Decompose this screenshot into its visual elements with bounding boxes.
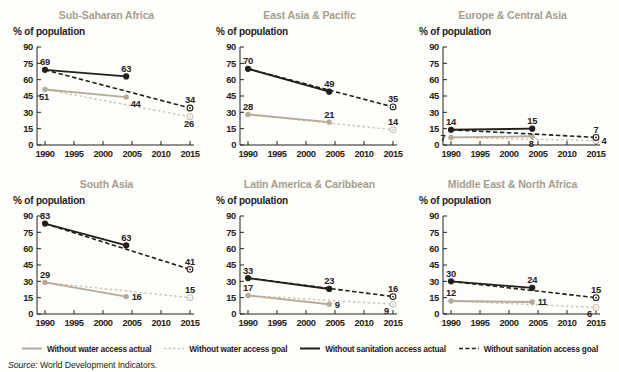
svg-text:15: 15 <box>429 124 439 134</box>
svg-text:75: 75 <box>226 59 236 69</box>
svg-text:1990: 1990 <box>441 149 460 159</box>
svg-text:2015: 2015 <box>586 318 605 328</box>
svg-text:1995: 1995 <box>470 318 489 328</box>
svg-text:33: 33 <box>243 265 253 276</box>
svg-text:2005: 2005 <box>122 149 141 159</box>
svg-text:45: 45 <box>226 260 236 270</box>
svg-text:30: 30 <box>23 108 33 118</box>
svg-text:0: 0 <box>28 309 33 319</box>
chart-title: Middle East & North Africa <box>413 177 612 192</box>
svg-text:45: 45 <box>429 260 439 270</box>
svg-text:51: 51 <box>39 91 49 102</box>
svg-text:7: 7 <box>594 124 599 135</box>
svg-text:1990: 1990 <box>35 318 54 328</box>
chart-sub-saharan-africa: Sub-Saharan Africa % of population 01530… <box>7 8 206 169</box>
svg-text:90: 90 <box>226 211 236 221</box>
y-axis-label: % of population <box>13 194 206 207</box>
svg-text:2015: 2015 <box>383 318 402 328</box>
svg-text:2000: 2000 <box>296 318 315 328</box>
svg-text:2015: 2015 <box>586 149 605 159</box>
svg-text:60: 60 <box>23 244 33 254</box>
legend-label: Without sanitation access goal <box>484 344 598 354</box>
sanitation-actual-line-sample-icon <box>299 344 321 353</box>
svg-text:4: 4 <box>602 135 608 146</box>
source-text: World Development Indicators. <box>38 360 158 370</box>
chart-east-asia-pacific: East Asia & Pacific % of population 0153… <box>210 8 409 169</box>
svg-text:0: 0 <box>231 309 236 319</box>
chart-title: Latin America & Caribbean <box>210 177 409 192</box>
svg-text:15: 15 <box>185 284 195 295</box>
svg-text:15: 15 <box>226 293 236 303</box>
svg-text:16: 16 <box>388 283 398 294</box>
y-axis-label: % of population <box>419 25 612 38</box>
svg-text:35: 35 <box>388 93 398 104</box>
svg-text:14: 14 <box>388 116 399 127</box>
svg-text:1995: 1995 <box>64 149 83 159</box>
svg-text:30: 30 <box>429 277 439 287</box>
svg-text:21: 21 <box>324 109 334 120</box>
svg-text:90: 90 <box>23 211 33 221</box>
svg-text:0: 0 <box>434 309 439 319</box>
legend-item-sanitation-goal: Without sanitation access goal <box>458 344 598 354</box>
legend: Without water access actual Without wate… <box>0 341 619 356</box>
svg-text:90: 90 <box>23 42 33 52</box>
chart-europe-central-asia: Europe & Central Asia % of population 01… <box>413 8 612 169</box>
svg-text:11: 11 <box>538 296 547 307</box>
svg-text:30: 30 <box>23 277 33 287</box>
svg-text:45: 45 <box>23 260 33 270</box>
svg-text:60: 60 <box>429 75 439 85</box>
svg-text:15: 15 <box>23 124 33 134</box>
svg-text:1995: 1995 <box>267 318 286 328</box>
water-goal-line-sample-icon <box>163 344 185 353</box>
svg-text:17: 17 <box>243 282 253 293</box>
svg-text:1990: 1990 <box>35 149 54 159</box>
svg-text:90: 90 <box>226 42 236 52</box>
chart-south-asia: South Asia % of population 0153045607590… <box>7 177 206 338</box>
charts-grid: Sub-Saharan Africa % of population 01530… <box>0 8 619 338</box>
svg-text:2005: 2005 <box>528 149 547 159</box>
svg-text:2000: 2000 <box>499 149 518 159</box>
svg-text:0: 0 <box>434 140 439 150</box>
line-plot: 0153045607590199019952000200520102015265… <box>7 39 206 169</box>
svg-text:1990: 1990 <box>441 318 460 328</box>
legend-label: Without water access goal <box>189 344 287 354</box>
svg-text:83: 83 <box>40 210 50 221</box>
svg-text:60: 60 <box>226 244 236 254</box>
svg-text:63: 63 <box>121 232 131 243</box>
svg-text:60: 60 <box>226 75 236 85</box>
svg-text:0: 0 <box>231 140 236 150</box>
svg-text:1995: 1995 <box>64 318 83 328</box>
svg-text:15: 15 <box>429 293 439 303</box>
svg-text:14: 14 <box>446 116 457 127</box>
svg-text:49: 49 <box>324 78 334 89</box>
source-note: Source: World Development Indicators. <box>8 360 619 370</box>
svg-text:24: 24 <box>527 274 538 285</box>
y-axis-label: % of population <box>419 194 612 207</box>
svg-text:2005: 2005 <box>325 149 344 159</box>
svg-text:2000: 2000 <box>93 149 112 159</box>
svg-text:44: 44 <box>131 98 142 109</box>
svg-text:69: 69 <box>40 56 50 67</box>
svg-text:2010: 2010 <box>151 318 170 328</box>
svg-text:28: 28 <box>243 101 253 112</box>
chart-title: East Asia & Pacific <box>210 8 409 23</box>
chart-latin-america-caribbean: Latin America & Caribbean % of populatio… <box>210 177 409 338</box>
y-axis-label: % of population <box>13 25 206 38</box>
svg-text:75: 75 <box>429 228 439 238</box>
svg-text:75: 75 <box>226 228 236 238</box>
svg-text:15: 15 <box>226 124 236 134</box>
svg-text:30: 30 <box>446 268 456 279</box>
svg-text:29: 29 <box>40 269 50 280</box>
svg-text:75: 75 <box>23 59 33 69</box>
svg-text:30: 30 <box>429 108 439 118</box>
legend-label: Without water access actual <box>47 344 151 354</box>
svg-text:6: 6 <box>587 308 592 319</box>
svg-text:8: 8 <box>529 138 534 149</box>
svg-text:75: 75 <box>23 228 33 238</box>
chart-title: South Asia <box>7 177 206 192</box>
sanitation-goal-line-sample-icon <box>458 344 480 353</box>
svg-text:90: 90 <box>429 211 439 221</box>
svg-text:9: 9 <box>384 305 389 316</box>
svg-text:2005: 2005 <box>528 318 547 328</box>
svg-text:45: 45 <box>226 91 236 101</box>
